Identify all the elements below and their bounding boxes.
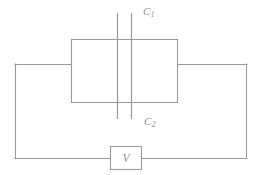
capacitor-c1-label-subscript: 1 — [151, 10, 155, 19]
capacitor-c1-label: C1 — [143, 5, 155, 17]
capacitor-c2-label-main: C — [144, 115, 152, 127]
capacitor-c2-label: C2 — [144, 115, 156, 127]
capacitor-c2-label-subscript: 2 — [152, 120, 156, 129]
capacitor-circuit-diagram: C1 C2 V — [0, 0, 264, 175]
voltage-source-label: V — [110, 146, 142, 170]
capacitor-c1-label-main: C — [143, 5, 151, 17]
